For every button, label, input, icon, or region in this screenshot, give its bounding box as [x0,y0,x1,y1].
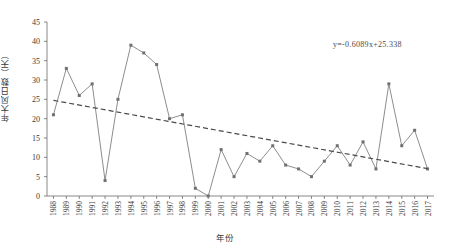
x-tick-label: 2004 [256,201,265,216]
wind-days-line-chart: 051015202530354045 198819891990199119921… [0,0,449,249]
data-point-marker [413,129,416,132]
data-point-marker [168,117,171,120]
x-tick-label: 2002 [230,201,239,216]
x-tick-label: 2015 [398,201,407,216]
data-point-marker [142,51,145,54]
data-point-marker [362,140,365,143]
trendline-equation-annotation: y=-0.6089x+25.338 [333,40,402,49]
y-tick-label: 25 [24,95,40,104]
data-point-marker [374,167,377,170]
data-point-marker [284,164,287,167]
y-tick-label: 45 [24,18,40,27]
x-tick-label: 2012 [359,201,368,216]
x-tick-label: 1997 [166,201,175,216]
x-tick-label: 1995 [140,201,149,216]
x-tick-label: 2001 [217,201,226,216]
trendline [53,100,427,168]
y-tick-label: 5 [24,172,40,181]
x-tick-label: 1988 [49,201,58,216]
data-point-marker [181,113,184,116]
x-tick-label: 2009 [320,201,329,216]
data-point-markers [52,44,429,198]
data-point-marker [387,82,390,85]
x-tick-label: 1998 [178,201,187,216]
x-tick-label: 2007 [295,201,304,216]
data-point-marker [297,167,300,170]
data-series-line [53,45,427,196]
x-tick-label: 2013 [372,201,381,216]
x-tick-label: 2010 [333,201,342,216]
data-point-marker [245,152,248,155]
data-point-marker [129,44,132,47]
x-tick-label: 1990 [75,201,84,216]
data-point-marker [323,160,326,163]
x-tick-label: 2016 [411,201,420,216]
x-tick-label: 1989 [62,201,71,216]
y-tick-label: 35 [24,56,40,65]
y-tick-label: 30 [24,76,40,85]
data-point-marker [52,113,55,116]
data-point-marker [400,144,403,147]
x-tick-label: 2006 [282,201,291,216]
x-tick-label: 2005 [269,201,278,216]
y-tick-label: 15 [24,134,40,143]
x-tick-label: 1996 [153,201,162,216]
x-tick-label: 1992 [101,201,110,216]
y-axis-title: 年大风日数（天） [2,50,20,122]
y-tick-label: 0 [24,192,40,201]
data-point-marker [258,160,261,163]
y-tick-label: 20 [24,114,40,123]
x-tick-label: 1994 [127,201,136,216]
data-point-marker [65,67,68,70]
data-point-marker [91,82,94,85]
x-tick-label: 2003 [243,201,252,216]
x-tick-label: 1993 [114,201,123,216]
x-axis-title: 年份 [0,231,449,243]
data-point-marker [104,179,107,182]
x-axis-tick-marks [53,196,427,199]
data-point-marker [271,144,274,147]
data-point-marker [78,94,81,97]
data-point-marker [194,187,197,190]
data-point-marker [233,175,236,178]
x-tick-label: 2011 [346,201,355,216]
x-tick-label: 2008 [307,201,316,216]
data-point-marker [116,98,119,101]
x-tick-label: 2017 [424,201,433,216]
data-point-marker [336,144,339,147]
data-point-marker [349,164,352,167]
data-point-marker [207,195,210,198]
x-tick-label: 2000 [204,201,213,216]
data-point-marker [220,148,223,151]
data-point-marker [155,63,158,66]
x-tick-label: 2014 [385,201,394,216]
y-tick-label: 10 [24,153,40,162]
x-tick-label: 1991 [88,201,97,216]
x-tick-label: 1999 [191,201,200,216]
y-axis-tick-marks [44,22,47,196]
data-point-marker [310,175,313,178]
y-tick-label: 40 [24,37,40,46]
